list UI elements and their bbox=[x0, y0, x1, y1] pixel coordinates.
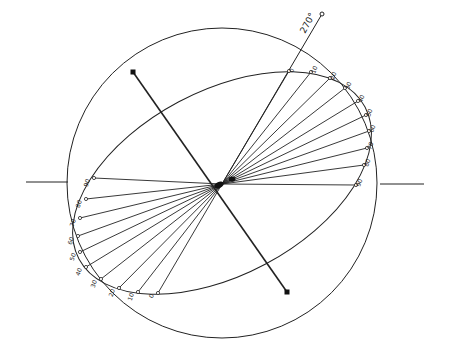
ray-end-marker-icon bbox=[84, 265, 87, 268]
ray-line bbox=[94, 178, 222, 184]
angle-label: 70 bbox=[68, 218, 77, 228]
angle-label: 0 bbox=[287, 67, 295, 73]
angle-label: 40 bbox=[356, 94, 365, 104]
ray-lines bbox=[78, 71, 369, 293]
angle-label: 10 bbox=[126, 292, 135, 302]
angle-label: 80 bbox=[362, 158, 371, 168]
ray-end-marker-icon bbox=[136, 290, 139, 293]
ray-line bbox=[138, 184, 222, 292]
angle-label: 90 bbox=[354, 178, 363, 188]
ray-line bbox=[222, 72, 311, 184]
angle-label: 60 bbox=[367, 124, 376, 134]
angle-label: 30 bbox=[89, 279, 98, 289]
angle-label: 20 bbox=[107, 288, 116, 298]
angle-marker-label: 270° bbox=[298, 11, 317, 35]
diagram-canvas: 270° 01020304050607080909080706050403020… bbox=[0, 0, 454, 350]
axis-end-marker-top bbox=[131, 70, 136, 75]
ray-line bbox=[222, 78, 330, 184]
ray-end-marker-icon bbox=[156, 291, 159, 294]
ray-end-marker-icon bbox=[99, 277, 102, 280]
angle-label: 40 bbox=[74, 267, 83, 277]
ray-line bbox=[222, 184, 356, 185]
ray-line bbox=[222, 115, 366, 184]
ray-end-marker-icon bbox=[76, 234, 79, 237]
ray-line bbox=[80, 184, 222, 252]
angle-marker-arrow-icon bbox=[320, 12, 324, 16]
ray-end-marker-icon bbox=[92, 176, 95, 179]
ray-end-marker-icon bbox=[78, 250, 81, 253]
center-hub-secondary bbox=[229, 177, 236, 182]
ellipse-circle-diagram: 270° 01020304050607080909080706050403020… bbox=[0, 0, 454, 350]
angle-label: 80 bbox=[74, 199, 83, 209]
angle-label: 90 bbox=[82, 178, 91, 188]
angle-label: 10 bbox=[309, 65, 318, 75]
tilted-minor-axis bbox=[133, 72, 287, 292]
axis-end-marker-bottom bbox=[285, 290, 290, 295]
angle-label: 50 bbox=[364, 108, 373, 118]
angle-label: 50 bbox=[68, 252, 77, 262]
ray-end-marker-icon bbox=[84, 197, 87, 200]
angle-label: 30 bbox=[343, 81, 352, 91]
ray-end-marker-icon bbox=[78, 216, 81, 219]
ray-end-marker-icon bbox=[117, 286, 120, 289]
ray-line bbox=[222, 148, 367, 184]
